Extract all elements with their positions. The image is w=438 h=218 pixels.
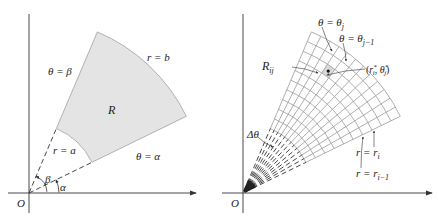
r-i-minus-1-label: r = ri−1: [356, 167, 389, 182]
lower-ray-label: θ = α: [136, 150, 160, 162]
right-panel: O Rij (r*i, θ*j) θ = θj θ = θj−1 r = ri …: [222, 14, 432, 213]
delta-theta-label: Δθ: [246, 128, 259, 140]
region-label: R: [107, 103, 116, 117]
r-i-label: r = ri: [356, 146, 380, 161]
cell-label: Rij: [261, 59, 275, 75]
left-panel: O R r = b r = a θ = β θ = α β α: [8, 14, 196, 213]
sample-point-label: (r*i, θ*j): [366, 63, 389, 77]
polar-region-diagram: O R r = b r = a θ = β θ = α β α O Rij (r…: [0, 0, 438, 218]
theta-j-label: θ = θj: [318, 16, 345, 31]
outer-arc-label: r = b: [147, 51, 170, 63]
origin-label: O: [17, 197, 25, 209]
angle-beta-label: β: [44, 173, 51, 185]
ray-beta-dashed: [29, 129, 56, 193]
polar-grid: [270, 32, 400, 162]
angle-alpha-label: α: [60, 181, 66, 193]
sample-point: [327, 69, 330, 72]
theta-j-minus-1-label: θ = θj−1: [339, 32, 374, 47]
upper-ray-label: θ = β: [48, 65, 72, 77]
origin-label: O: [231, 197, 239, 209]
inner-arc-label: r = a: [53, 144, 76, 156]
angle-alpha-arc: [56, 180, 59, 193]
leader-theta-j: [322, 27, 332, 51]
